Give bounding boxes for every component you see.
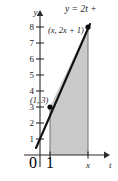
y-tick-label-7: 7 [30, 38, 35, 48]
lower-point-label: (1, 3) [30, 95, 49, 105]
y-tick-label-1: 1 [30, 134, 35, 144]
y-axis-label: y [33, 7, 38, 17]
y-axis-arrow-icon [37, 10, 44, 16]
y-tick-label-2: 2 [30, 118, 35, 128]
x-axis-label: t [109, 160, 112, 170]
figure-container: 1 2 3 4 5 6 7 8 0 1 x y t y = 2t + (x, 2… [0, 0, 118, 181]
y-tick-label-8: 8 [30, 22, 35, 32]
x-axis-arrow-icon [104, 152, 110, 159]
origin-label: 0 [29, 154, 37, 171]
x-tick-label-x: x [85, 160, 90, 170]
shaded-area-region [50, 27, 88, 155]
point-marker-x-2x-plus-1 [85, 24, 90, 29]
y-tick-label-5: 5 [30, 70, 35, 80]
y-tick-label-6: 6 [30, 54, 35, 64]
equation-label: y = 2t + [64, 4, 97, 14]
point-marker-1-3 [47, 104, 52, 109]
upper-point-label: (x, 2x + 1) [48, 25, 84, 35]
line-graph-figure: 1 2 3 4 5 6 7 8 0 1 x y t y = 2t + (x, 2… [0, 0, 118, 181]
x-tick-label-1: 1 [46, 154, 54, 171]
